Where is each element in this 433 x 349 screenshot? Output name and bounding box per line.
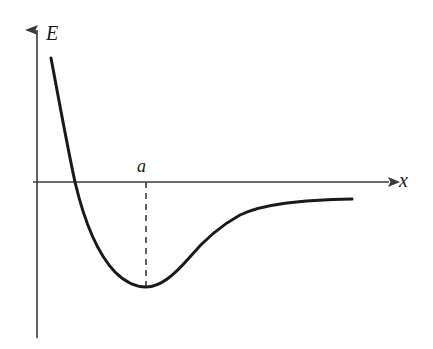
y-axis-label: E bbox=[46, 23, 58, 43]
energy-curve bbox=[51, 58, 352, 287]
x-axis-label: x bbox=[399, 170, 408, 190]
plot-canvas bbox=[0, 0, 433, 349]
potential-energy-figure: E x a bbox=[0, 0, 433, 349]
equilibrium-point-label: a bbox=[137, 157, 146, 175]
